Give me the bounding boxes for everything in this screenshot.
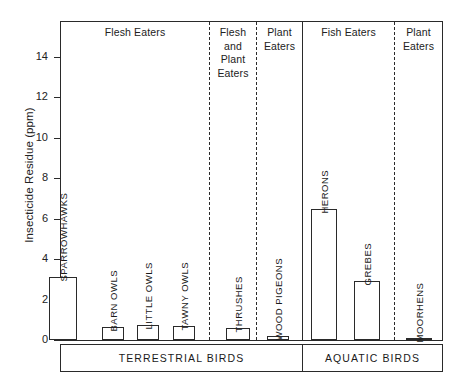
diet-header-fish-eaters: Fish Eaters bbox=[303, 26, 394, 40]
bar-label-little-owls: LITTLE OWLS bbox=[144, 262, 154, 329]
diet-header-line: and bbox=[210, 40, 256, 54]
diet-header-line: Eaters bbox=[257, 40, 302, 54]
diet-header-line: Fish Eaters bbox=[303, 26, 394, 40]
divider-terrestrial-to-aquatic bbox=[302, 22, 303, 340]
habitat-band-terrestrial-birds: TERRESTRIAL BIRDS bbox=[60, 344, 303, 372]
habitat-band-aquatic-birds: AQUATIC BIRDS bbox=[302, 344, 443, 372]
bar-label-tawny-owls: TAWNY OWLS bbox=[180, 262, 190, 331]
diet-header-plant-eaters-terrestrial: PlantEaters bbox=[257, 26, 302, 53]
bar-label-moorhens: MOORHENS bbox=[415, 282, 425, 342]
diet-header-line: Flesh bbox=[210, 26, 256, 40]
y-tick-label: 2 bbox=[26, 294, 48, 305]
y-tick-label: 14 bbox=[26, 51, 48, 62]
habitat-band-label: AQUATIC BIRDS bbox=[325, 352, 420, 364]
divider-flesh-and-plant-to-plant bbox=[256, 22, 257, 340]
diet-header-flesh-and-plant-eaters: FleshandPlantEaters bbox=[210, 26, 256, 80]
diet-header-line: Plant bbox=[210, 53, 256, 67]
diet-header-flesh-eaters: Flesh Eaters bbox=[61, 26, 209, 40]
divider-fish-to-plant-aquatic bbox=[394, 22, 395, 340]
diet-header-plant-eaters-aquatic: PlantEaters bbox=[395, 26, 442, 53]
insecticide-residue-bar-chart: Insecticide Residue (ppm) 14121086420 Fl… bbox=[0, 0, 460, 387]
y-tick-label: 6 bbox=[26, 213, 48, 224]
bar-label-thrushes: THRUSHES bbox=[234, 276, 244, 332]
y-tick-label: 4 bbox=[26, 253, 48, 264]
y-tick-label: 0 bbox=[26, 334, 48, 345]
habitat-band-label: TERRESTRIAL BIRDS bbox=[119, 352, 245, 364]
bar-label-sparrowhawks: SPARROWHAWKS bbox=[59, 193, 69, 282]
bar-label-herons: HERONS bbox=[320, 169, 330, 213]
diet-header-line: Plant bbox=[395, 26, 442, 40]
y-tick-label: 10 bbox=[26, 132, 48, 143]
diet-header-line: Eaters bbox=[395, 40, 442, 54]
bar-label-barn-owls: BARN OWLS bbox=[109, 270, 119, 332]
bar-grebes bbox=[354, 281, 380, 340]
y-tick-label: 8 bbox=[26, 172, 48, 183]
bar-label-wood-pigeons: WOOD PIGEONS bbox=[274, 258, 284, 341]
bar-herons bbox=[311, 209, 337, 340]
bar-label-grebes: GREBES bbox=[363, 243, 373, 286]
diet-header-line: Flesh Eaters bbox=[61, 26, 209, 40]
y-tick-label: 12 bbox=[26, 91, 48, 102]
bar-sparrowhawks bbox=[49, 277, 77, 340]
diet-header-line: Plant bbox=[257, 26, 302, 40]
diet-header-line: Eaters bbox=[210, 67, 256, 81]
